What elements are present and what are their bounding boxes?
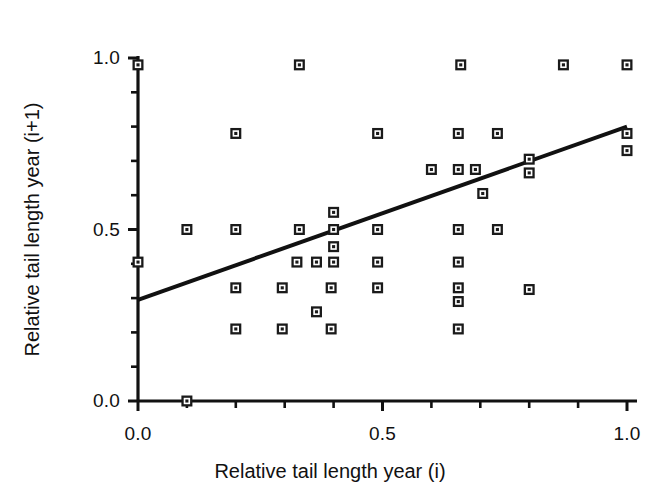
x-axis-title: Relative tail length year (i) xyxy=(0,460,660,483)
y-axis-title: Relative tail length year (i+1) xyxy=(21,50,44,410)
axis-title-layer: Relative tail length year (i) Relative t… xyxy=(0,0,660,498)
scatter-plot-figure: 0.00.51.00.00.51.0 Relative tail length … xyxy=(0,0,660,498)
